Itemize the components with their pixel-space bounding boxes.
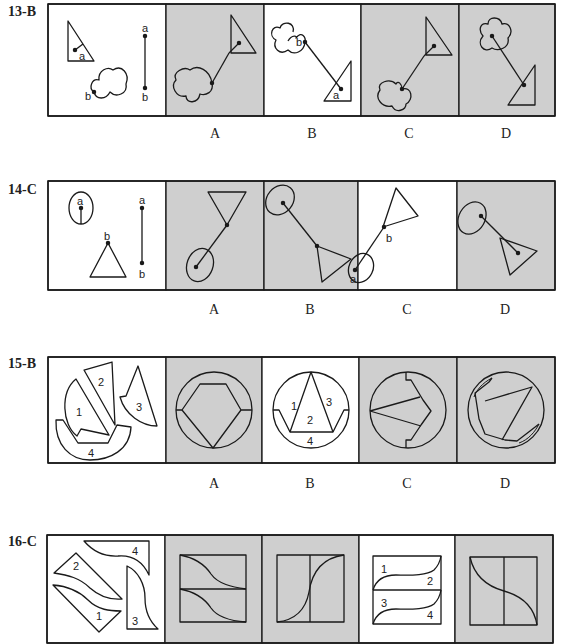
panel-14-option-a[interactable] (166, 181, 264, 290)
svg-text:2: 2 (73, 560, 79, 572)
svg-text:b: b (139, 268, 145, 280)
question-16: 4 2 1 3 1 (47, 535, 553, 643)
panel-13-option-b[interactable] (264, 4, 361, 116)
svg-text:b: b (104, 230, 110, 242)
svg-text:b: b (296, 36, 302, 48)
svg-text:a: a (350, 273, 357, 285)
svg-text:1: 1 (96, 610, 102, 622)
svg-text:2: 2 (427, 575, 433, 587)
svg-text:2: 2 (307, 414, 313, 426)
svg-text:a: a (77, 195, 84, 207)
question-13: a b a b b a (48, 4, 555, 116)
svg-text:3: 3 (326, 396, 332, 408)
svg-text:1: 1 (381, 563, 387, 575)
svg-text:4: 4 (307, 435, 313, 447)
question-14: a b a b b (48, 179, 555, 290)
panel-14-option-b[interactable] (264, 181, 358, 290)
panel-13-option-a[interactable] (166, 4, 264, 116)
svg-text:3: 3 (381, 597, 387, 609)
figure-canvas: a b a b b a (0, 0, 563, 644)
svg-text:1: 1 (291, 400, 297, 412)
panel-13-stimulus (48, 4, 166, 116)
svg-text:4: 4 (132, 545, 138, 557)
svg-text:b: b (142, 91, 148, 103)
svg-text:4: 4 (427, 609, 433, 621)
svg-text:b: b (386, 232, 392, 244)
panel-16-stimulus (47, 535, 165, 643)
svg-text:4: 4 (88, 447, 94, 459)
svg-text:a: a (139, 194, 146, 206)
svg-text:3: 3 (132, 615, 138, 627)
svg-text:2: 2 (98, 376, 104, 388)
svg-text:b: b (85, 90, 91, 102)
svg-text:3: 3 (136, 401, 142, 413)
panel-14-option-c[interactable] (358, 181, 457, 290)
svg-text:a: a (79, 50, 86, 62)
question-15: 1 2 3 4 1 2 3 4 (48, 357, 555, 463)
svg-text:a: a (333, 89, 340, 101)
panel-14-option-d[interactable] (457, 181, 555, 290)
panel-15-option-d[interactable] (457, 357, 555, 463)
svg-text:1: 1 (76, 406, 82, 418)
svg-text:a: a (142, 22, 149, 34)
